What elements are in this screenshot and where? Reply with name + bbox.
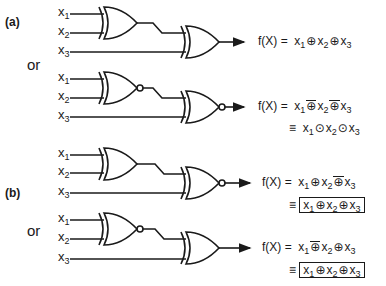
input-x1: x1 xyxy=(58,211,70,229)
circuit-b1 xyxy=(70,148,250,199)
input-x3: x3 xyxy=(58,184,70,202)
section-label-a: (a) xyxy=(5,16,20,29)
xor-gate-1 xyxy=(99,7,137,39)
input-x1: x1 xyxy=(58,70,70,88)
xnor-gate-2 xyxy=(181,91,219,123)
xnor-gate-2 xyxy=(181,167,219,199)
equation-b1: f(X) = x1⊕x2⊕x3 xyxy=(262,175,356,193)
or-label: or xyxy=(27,224,40,237)
xor-gate-1 xyxy=(99,148,137,180)
input-x2: x2 xyxy=(58,230,70,248)
xor-gate-2 xyxy=(181,232,219,264)
circuit-b2 xyxy=(70,213,250,264)
input-x3: x3 xyxy=(58,108,70,126)
section-label-b: (b) xyxy=(5,187,20,200)
input-x2: x2 xyxy=(58,164,70,182)
or-label: or xyxy=(27,58,40,71)
circuit-a2 xyxy=(70,72,244,123)
input-x1: x1 xyxy=(58,5,70,23)
input-x2: x2 xyxy=(58,24,70,42)
xnor-gate-1 xyxy=(99,213,137,245)
equation-b2-equiv: ≡ x1⊕x2⊕x3 xyxy=(289,263,365,281)
equation-a2-equiv: ≡ x1⊙x2⊙x3 xyxy=(289,121,360,139)
equation-a1: f(X) = x1⊕x2⊕x3 xyxy=(258,34,352,52)
xor-gate-2 xyxy=(181,26,219,58)
input-x3: x3 xyxy=(58,43,70,61)
equation-b1-equiv: ≡ x1⊕x2⊕x3 xyxy=(289,198,365,216)
xnor-gate-1 xyxy=(99,72,137,104)
input-x3: x3 xyxy=(58,250,70,268)
input-x2: x2 xyxy=(58,89,70,107)
input-x1: x1 xyxy=(58,146,70,164)
equation-a2: f(X) = x1⊕x2⊕x3 xyxy=(258,99,352,117)
circuit-a1 xyxy=(70,7,244,58)
equation-b2: f(X) = x1⊕x2⊕x3 xyxy=(262,240,356,258)
